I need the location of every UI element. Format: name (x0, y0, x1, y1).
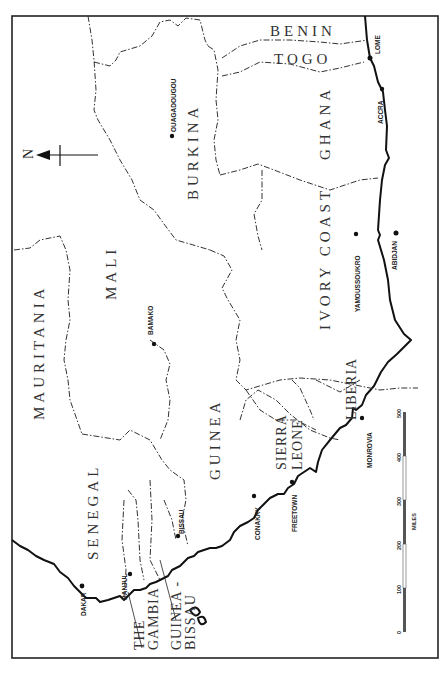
country-label-leone: LEONE (290, 419, 305, 470)
city-yamoussoukro: YAMOUSSOUKRO (354, 232, 361, 312)
svg-text:ACCRA: ACCRA (377, 100, 384, 124)
scale-tick-400: 400 (396, 453, 402, 462)
svg-text:LOME: LOME (374, 35, 381, 54)
north-label: N (21, 149, 36, 159)
city-lome: LOME (368, 35, 382, 61)
country-label-benin: BENIN (270, 23, 336, 39)
scale-tick-200: 200 (396, 541, 402, 550)
svg-text:CONAKRY: CONAKRY (254, 507, 261, 540)
scale-tick-500: 500 (396, 409, 402, 418)
svg-text:BAMAKO: BAMAKO (147, 306, 154, 335)
coastline (12, 16, 411, 602)
city-banjul: BANJUL (121, 572, 132, 600)
west-africa-map: N MAURITANIA MALI BURKINA BENIN TOGO GHA… (0, 0, 441, 676)
svg-text:OUAGADOUGOU: OUAGADOUGOU (170, 78, 177, 132)
svg-text:BISSAU: BISSAU (178, 509, 185, 534)
city-bamako: BAMAKO (147, 306, 156, 346)
scale-unit: MILES (411, 513, 417, 530)
country-label-ivory-coast: IVORY COAST (317, 187, 333, 330)
scale-tick-300: 300 (396, 497, 402, 506)
city-abidjan: ABIDJAN (391, 231, 399, 271)
country-label-the: THE (132, 620, 147, 650)
country-label-ghana: GHANA (317, 86, 333, 160)
city-monrovia: MONROVIA (360, 416, 373, 468)
country-label-liberia: LIBERIA (344, 358, 359, 420)
svg-text:YAMOUSSOUKRO: YAMOUSSOUKRO (354, 256, 361, 312)
country-label-mauritania: MAURITANIA (31, 285, 47, 420)
svg-text:BANJUL: BANJUL (121, 574, 128, 600)
svg-text:FREETOWN: FREETOWN (291, 495, 298, 532)
scale-bar: 0 100 200 300 400 500 MILES (396, 409, 417, 634)
city-conakry: CONAKRY (252, 494, 261, 540)
country-label-sierra: SIERRA (274, 414, 289, 470)
svg-text:ABIDJAN: ABIDJAN (391, 241, 398, 270)
svg-text:MONROVIA: MONROVIA (366, 432, 373, 468)
map-frame (12, 16, 438, 658)
country-label-guinea: GUINEA (207, 399, 223, 481)
country-label-bissau: BISSAU (183, 594, 198, 650)
country-label-senegal: SENEGAL (85, 464, 101, 560)
scale-tick-100: 100 (396, 585, 402, 594)
north-arrow-icon (36, 145, 98, 166)
country-label-burkina: BURKINA (185, 104, 201, 200)
country-label-gambia: GAMBIA (146, 587, 161, 650)
scale-tick-0: 0 (396, 631, 402, 634)
country-label-togo: TOGO (274, 51, 331, 67)
city-ouagadougou: OUAGADOUGOU (170, 78, 177, 138)
country-label-guinea-dash: GUINEA - (169, 581, 184, 650)
city-freetown: FREETOWN (290, 480, 298, 532)
country-label-mali: MALI (103, 246, 119, 300)
svg-text:DAKAR: DAKAR (80, 592, 87, 616)
city-bissau: BISSAU (176, 509, 185, 538)
city-dakar: DAKAR (80, 584, 87, 616)
